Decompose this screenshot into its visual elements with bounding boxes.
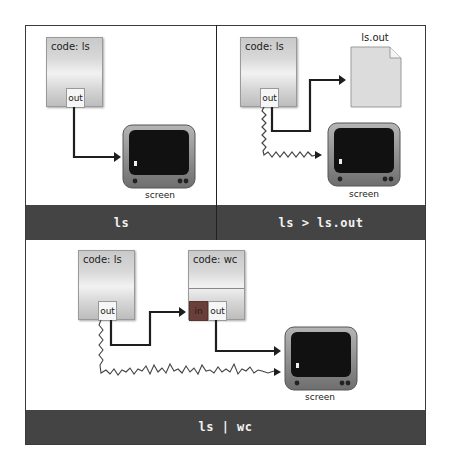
stdout-port: out <box>260 88 279 108</box>
monitor-icon <box>122 124 196 190</box>
process-ls: code: ls out <box>78 250 135 320</box>
process-ls: code: ls out <box>46 37 103 107</box>
command-text: ls <box>114 216 129 230</box>
process-ls: code: ls out <box>240 37 297 107</box>
monitor-icon <box>327 122 401 188</box>
monitor-icon <box>284 326 358 392</box>
file-label: ls.out <box>355 32 395 43</box>
stdin-port: in <box>189 301 208 321</box>
stdout-port: out <box>208 301 227 321</box>
screen-label: screen <box>344 189 384 199</box>
process-title: code: wc <box>193 254 237 265</box>
command-bar-ls: ls <box>26 205 217 240</box>
process-wc: code: wc in out <box>188 250 245 320</box>
command-bar-pipe: ls | wc <box>26 410 425 444</box>
process-title: code: ls <box>245 41 284 52</box>
stdout-port: out <box>98 301 117 321</box>
document-icon <box>350 46 402 108</box>
screen-label: screen <box>300 392 340 402</box>
process-title: code: ls <box>51 41 90 52</box>
command-text: ls | wc <box>198 420 252 434</box>
stdout-port: out <box>66 88 85 108</box>
process-title: code: ls <box>83 254 122 265</box>
command-bar-redirect: ls > ls.out <box>217 205 425 240</box>
screen-label: screen <box>140 190 180 200</box>
command-text: ls > ls.out <box>279 216 364 230</box>
divider <box>189 288 244 289</box>
